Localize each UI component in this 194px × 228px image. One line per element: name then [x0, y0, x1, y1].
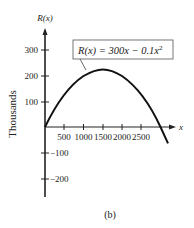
equation-label: R(x) = 300x − 0.1x2: [77, 44, 163, 57]
y-axis-arrow-icon: [43, 28, 48, 35]
y-tick-label: 100: [25, 97, 39, 107]
x-tick-label: 500: [57, 132, 71, 142]
y-tick-label: −200: [50, 174, 69, 184]
x-tick-label: 1500: [94, 132, 113, 142]
y-side-label: Thousands: [6, 90, 18, 138]
x-tick-label: 1000: [75, 132, 94, 142]
chart: 500 1000 1500 2000 2500 300 200 100 −100…: [0, 0, 194, 228]
x-axis-arrow-icon: [169, 125, 176, 130]
y-tick-label: 200: [25, 71, 39, 81]
y-tick-label: 300: [25, 45, 39, 55]
y-axis-title: R(x): [36, 13, 53, 23]
y-tick-label: −100: [50, 148, 69, 158]
x-tick-label: 2500: [132, 132, 151, 142]
x-axis-title: x: [178, 122, 183, 132]
callout-leader: [80, 59, 86, 70]
figure-caption: (b): [104, 209, 116, 221]
x-tick-label: 2000: [113, 132, 132, 142]
